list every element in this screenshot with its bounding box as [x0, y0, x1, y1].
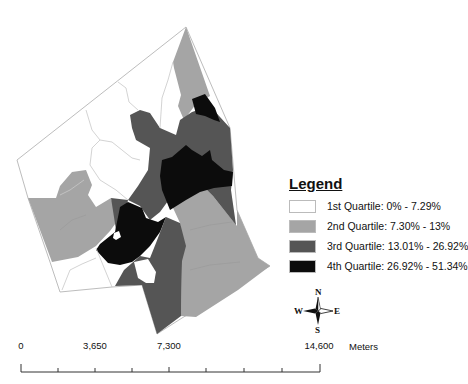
- legend-item-q4: 4th Quartile: 26.92% - 51.34%: [289, 256, 468, 276]
- scale-bar: 0 3,650 7,300 14,600 Meters: [0, 340, 467, 380]
- legend-label: 3rd Quartile: 13.01% - 26.92%: [327, 240, 468, 252]
- legend-item-q3: 3rd Quartile: 13.01% - 26.92%: [289, 236, 468, 256]
- choropleth-map: [0, 0, 290, 340]
- compass-rose-icon: [294, 287, 342, 337]
- legend-item-q2: 2nd Quartile: 7.30% - 13%: [289, 216, 468, 236]
- legend-swatch: [289, 200, 316, 213]
- scale-bar-ruler: [0, 340, 467, 380]
- legend-swatch: [289, 220, 316, 233]
- legend-title: Legend: [289, 175, 468, 192]
- legend: Legend 1st Quartile: 0% - 7.29% 2nd Quar…: [289, 175, 468, 276]
- legend-swatch: [289, 260, 316, 273]
- north-arrow: N W E S: [294, 287, 342, 337]
- legend-label: 1st Quartile: 0% - 7.29%: [327, 200, 441, 212]
- legend-label: 2nd Quartile: 7.30% - 13%: [327, 220, 450, 232]
- legend-item-q1: 1st Quartile: 0% - 7.29%: [289, 196, 468, 216]
- legend-swatch: [289, 240, 316, 253]
- legend-label: 4th Quartile: 26.92% - 51.34%: [327, 260, 468, 272]
